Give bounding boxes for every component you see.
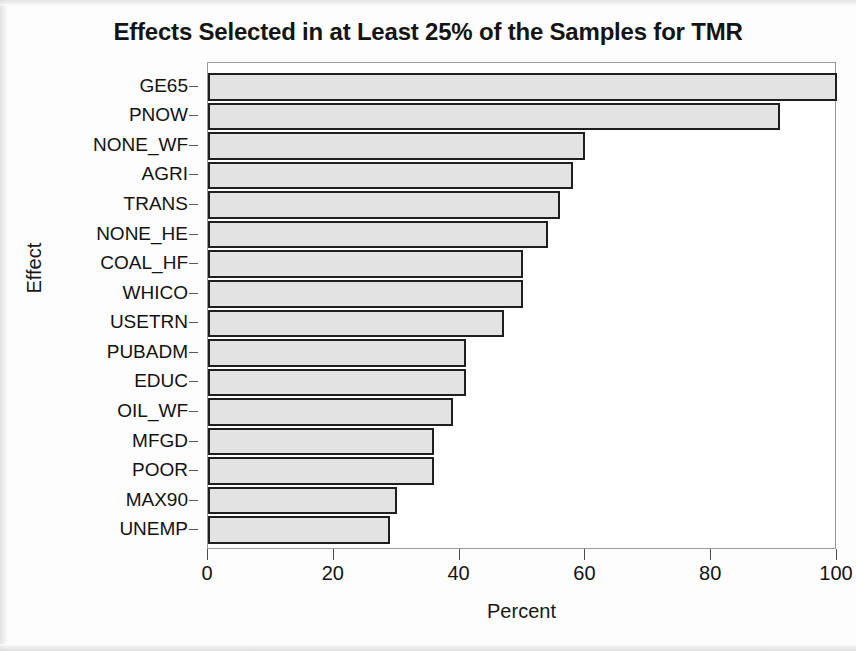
x-tick-mark: [459, 549, 460, 560]
bar-oil_wf: [208, 398, 453, 426]
x-tick-mark: [333, 549, 334, 560]
x-tick-mark: [584, 549, 585, 560]
plot-area: [207, 62, 836, 549]
bar-none_he: [208, 221, 548, 249]
x-tick-label-20: 20: [322, 562, 344, 585]
x-tick-label-40: 40: [447, 562, 469, 585]
y-axis-labels: GE65PNOWNONE_WFAGRITRANSNONE_HECOAL_HFWH…: [40, 62, 198, 549]
y-tick-label-unemp: UNEMP: [119, 518, 188, 540]
y-tick-mark: [189, 263, 198, 264]
bar-ge65: [208, 73, 837, 101]
bar-pubadm: [208, 339, 466, 367]
y-tick-mark: [189, 441, 198, 442]
x-axis-title: Percent: [207, 600, 836, 623]
y-tick-label-oil_wf: OIL_WF: [117, 400, 188, 422]
chart-title: Effects Selected in at Least 25% of the …: [0, 18, 856, 46]
y-tick-mark: [189, 145, 198, 146]
y-tick-mark: [189, 470, 198, 471]
y-tick-label-educ: EDUC: [134, 370, 188, 392]
bar-agri: [208, 162, 573, 190]
y-tick-mark: [189, 86, 198, 87]
bar-poor: [208, 457, 434, 485]
x-tick-label-60: 60: [573, 562, 595, 585]
x-tick-label-0: 0: [201, 562, 212, 585]
bar-educ: [208, 369, 466, 397]
bar-unemp: [208, 516, 390, 544]
y-tick-label-pnow: PNOW: [129, 104, 188, 126]
y-tick-mark: [189, 411, 198, 412]
y-tick-label-max90: MAX90: [126, 489, 188, 511]
x-tick-label-100: 100: [819, 562, 852, 585]
bar-mfgd: [208, 428, 434, 456]
y-tick-label-agri: AGRI: [142, 163, 188, 185]
scan-edge-top: [0, 0, 856, 6]
y-tick-label-whico: WHICO: [123, 282, 188, 304]
y-tick-label-ge65: GE65: [139, 75, 188, 97]
x-tick-label-80: 80: [699, 562, 721, 585]
x-tick-mark: [836, 549, 837, 560]
y-tick-mark: [189, 174, 198, 175]
y-tick-mark: [189, 529, 198, 530]
y-tick-mark: [189, 293, 198, 294]
y-tick-mark: [189, 500, 198, 501]
y-tick-label-coal_hf: COAL_HF: [100, 252, 188, 274]
x-tick-mark: [207, 549, 208, 560]
bar-trans: [208, 191, 560, 219]
scan-edge-bottom: [0, 644, 856, 651]
y-tick-mark: [189, 322, 198, 323]
y-tick-label-usetrn: USETRN: [110, 311, 188, 333]
y-tick-mark: [189, 381, 198, 382]
y-tick-label-none_wf: NONE_WF: [93, 134, 188, 156]
bar-max90: [208, 487, 397, 515]
chart-page: Effects Selected in at Least 25% of the …: [0, 0, 856, 651]
y-tick-label-none_he: NONE_HE: [96, 223, 188, 245]
y-tick-label-trans: TRANS: [124, 193, 188, 215]
y-tick-label-pubadm: PUBADM: [107, 341, 188, 363]
bar-whico: [208, 280, 523, 308]
bar-coal_hf: [208, 250, 523, 278]
y-tick-label-poor: POOR: [132, 459, 188, 481]
bar-none_wf: [208, 132, 585, 160]
y-tick-mark: [189, 352, 198, 353]
y-tick-mark: [189, 115, 198, 116]
y-tick-mark: [189, 204, 198, 205]
y-tick-mark: [189, 234, 198, 235]
bar-usetrn: [208, 310, 504, 338]
y-tick-label-mfgd: MFGD: [132, 430, 188, 452]
x-tick-mark: [710, 549, 711, 560]
bar-pnow: [208, 103, 780, 131]
scan-edge-left: [0, 0, 8, 651]
